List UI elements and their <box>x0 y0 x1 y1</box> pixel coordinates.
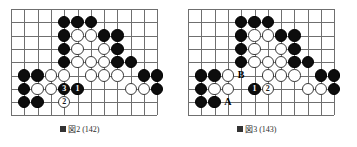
stone-black <box>138 69 150 81</box>
grid-line-vertical <box>334 9 335 115</box>
stone-white <box>98 69 110 81</box>
stone-white <box>98 43 110 55</box>
grid-line-horizontal <box>188 49 334 50</box>
grid-line-vertical <box>188 9 189 115</box>
stone-black <box>71 16 83 28</box>
stone-white <box>111 69 123 81</box>
caption-left: 図2 (142) <box>60 123 99 134</box>
stone-black <box>58 16 70 28</box>
stone-white <box>125 83 137 95</box>
board-point-label-b: B <box>235 69 247 81</box>
stone-black <box>85 16 97 28</box>
stone-black <box>151 83 163 95</box>
stone-move-number: 1 <box>72 84 82 94</box>
stone-white <box>262 69 274 81</box>
grid-line-vertical <box>51 9 52 115</box>
stone-white <box>208 83 220 95</box>
stone-white <box>275 56 287 68</box>
stone-black <box>288 29 300 41</box>
stone-white <box>275 69 287 81</box>
grid-line-vertical <box>11 9 12 115</box>
caption-marker-icon <box>237 126 243 132</box>
stone-move-number: 3 <box>59 84 69 94</box>
caption-left-text: 図2 (142) <box>68 123 99 134</box>
stone-white <box>248 29 260 41</box>
stone-black <box>195 96 207 108</box>
stone-white <box>98 56 110 68</box>
stone-black <box>125 56 137 68</box>
stone-black <box>328 69 340 81</box>
grid-line-horizontal <box>11 49 157 50</box>
stone-white <box>85 69 97 81</box>
stone-black <box>262 16 274 28</box>
stone-white <box>288 69 300 81</box>
stone-white <box>31 83 43 95</box>
caption-right-text: 図3 (143) <box>245 123 276 134</box>
diagram-sheet: 312 図2 (142) 12BA 図3 (143) <box>0 0 357 147</box>
stone-white <box>222 83 234 95</box>
stone-white <box>275 43 287 55</box>
stone-white <box>248 43 260 55</box>
stone-white <box>262 56 274 68</box>
stone-white <box>85 29 97 41</box>
stone-black <box>235 29 247 41</box>
stone-black <box>31 69 43 81</box>
stone-black <box>208 96 220 108</box>
stone-white <box>45 83 57 95</box>
stone-black <box>195 69 207 81</box>
stone-white <box>58 69 70 81</box>
stone-white <box>71 56 83 68</box>
stone-white <box>315 83 327 95</box>
stone-white <box>85 56 97 68</box>
numbered-stone-white: 2 <box>58 96 70 108</box>
grid-line-horizontal <box>11 9 157 10</box>
caption-right: 図3 (143) <box>237 123 276 134</box>
stone-black <box>111 56 123 68</box>
stone-black <box>31 96 43 108</box>
stone-black <box>235 16 247 28</box>
stone-black <box>58 29 70 41</box>
stone-black <box>208 69 220 81</box>
numbered-stone-white: 2 <box>262 83 274 95</box>
stone-white <box>302 83 314 95</box>
stone-move-number: 2 <box>59 97 69 107</box>
grid-line-horizontal <box>188 9 334 10</box>
stone-white <box>71 29 83 41</box>
go-grid-left: 312 <box>0 0 177 135</box>
stone-black <box>111 43 123 55</box>
stone-black <box>151 69 163 81</box>
stone-black <box>248 16 260 28</box>
stone-white <box>71 43 83 55</box>
stone-black <box>288 43 300 55</box>
grid-line-vertical <box>144 9 145 115</box>
stone-white <box>222 69 234 81</box>
grid-line-horizontal <box>11 115 157 116</box>
go-grid-right: 12BA <box>177 0 354 135</box>
stone-black <box>315 69 327 81</box>
stone-black <box>235 43 247 55</box>
board-point-label-a: A <box>222 96 234 108</box>
numbered-stone-black: 1 <box>248 83 260 95</box>
stone-black <box>288 56 300 68</box>
stone-black <box>18 96 30 108</box>
stone-black <box>111 29 123 41</box>
stone-black <box>58 43 70 55</box>
stone-move-number: 2 <box>263 84 273 94</box>
caption-marker-icon <box>60 126 66 132</box>
stone-black <box>275 29 287 41</box>
numbered-stone-black: 1 <box>71 83 83 95</box>
stone-black <box>235 56 247 68</box>
stone-black <box>328 83 340 95</box>
stone-black <box>195 83 207 95</box>
stone-move-number: 1 <box>249 84 259 94</box>
stone-white <box>248 56 260 68</box>
stone-black <box>18 69 30 81</box>
grid-line-vertical <box>157 9 158 115</box>
grid-line-horizontal <box>188 115 334 116</box>
grid-line-vertical <box>321 9 322 115</box>
stone-white <box>45 69 57 81</box>
stone-black <box>18 83 30 95</box>
stone-white <box>138 83 150 95</box>
stone-black <box>302 56 314 68</box>
stone-black <box>98 29 110 41</box>
